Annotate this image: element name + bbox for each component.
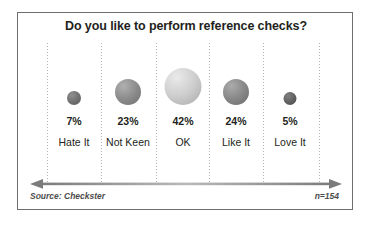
bubble-marker — [284, 92, 297, 105]
chart-frame: Do you like to perform reference checks?… — [17, 12, 353, 210]
category-axis-label: Like It — [209, 136, 263, 148]
bubble-marker — [223, 79, 249, 105]
chart-category-love-it: 5% Love It — [263, 43, 317, 153]
bubble-value-label: 24% — [209, 115, 263, 127]
plot-area: 7% Hate It 23% Not Keen 42% OK 24% Like … — [18, 13, 353, 210]
chart-category-not-keen: 23% Not Keen — [101, 43, 155, 153]
source-note: Source: Checkster — [30, 191, 105, 201]
sample-size-note: n=154 — [315, 191, 339, 201]
bubble-slot — [101, 43, 155, 105]
bubble-value-label: 23% — [101, 115, 155, 127]
chart-category-hate-it: 7% Hate It — [47, 43, 101, 153]
category-axis-label: Not Keen — [101, 136, 155, 148]
category-axis-label: Love It — [263, 136, 317, 148]
gridline — [319, 43, 320, 183]
bubble-marker — [165, 68, 202, 105]
bubble-value-label: 42% — [156, 115, 210, 127]
bubble-marker — [67, 91, 81, 105]
bubble-slot — [263, 43, 317, 105]
category-axis-label: OK — [156, 136, 210, 148]
bubble-slot — [156, 43, 210, 105]
bubble-slot — [47, 43, 101, 105]
axis-double-arrow-icon — [30, 177, 342, 191]
bubble-marker — [115, 79, 141, 105]
bubble-slot — [209, 43, 263, 105]
chart-category-like-it: 24% Like It — [209, 43, 263, 153]
bubble-value-label: 7% — [47, 115, 101, 127]
chart-category-ok: 42% OK — [156, 43, 210, 153]
category-axis-label: Hate It — [47, 136, 101, 148]
bubble-value-label: 5% — [263, 115, 317, 127]
